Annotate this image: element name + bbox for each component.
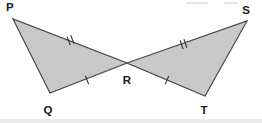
vertex-label-s: S	[242, 4, 250, 16]
triangle-rst	[127, 21, 247, 96]
geometry-diagram: P Q R S T	[0, 0, 262, 123]
scan-artifact-bottom-band	[0, 119, 262, 123]
vertex-label-r: R	[123, 74, 132, 86]
vertex-label-t: T	[200, 104, 207, 116]
vertex-label-p: P	[6, 1, 14, 13]
triangle-pqr	[13, 19, 127, 93]
scan-artifact-top-left	[186, 2, 208, 4]
geometry-canvas: P Q R S T	[0, 0, 262, 123]
vertex-label-q: Q	[44, 104, 53, 116]
scan-artifact-top-right	[224, 2, 238, 4]
